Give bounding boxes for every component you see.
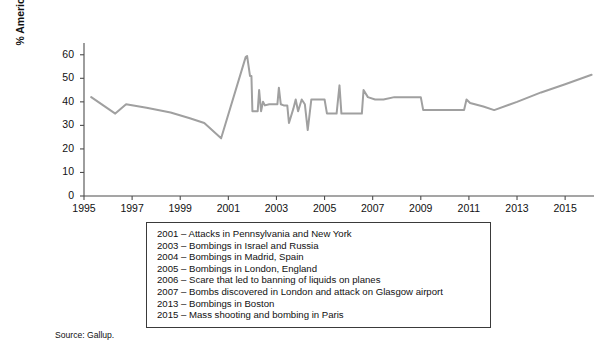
y-tick-label: 50: [52, 71, 74, 83]
annotation-legend-box: 2001 – Attacks in Pennsylvania and New Y…: [146, 222, 491, 328]
annotation-line: 2013 – Bombings in Boston: [157, 298, 482, 310]
x-tick-label: 1997: [112, 202, 152, 214]
x-tick-label: 2001: [208, 202, 248, 214]
annotation-line: 2003 – Bombings in Israel and Russia: [157, 240, 482, 252]
source-note: Source: Gallup.: [55, 330, 114, 340]
y-tick-label: 10: [52, 165, 74, 177]
x-tick-label: 2005: [305, 202, 345, 214]
x-tick-label: 2015: [545, 202, 585, 214]
axes: [80, 43, 594, 200]
data-series: [91, 56, 591, 138]
y-tick-label: 30: [52, 118, 74, 130]
annotation-line: 2015 – Mass shooting and bombing in Pari…: [157, 309, 482, 321]
series-line: [91, 56, 591, 138]
y-tick-label: 60: [52, 48, 74, 60]
annotation-line: 2006 – Scare that led to banning of liqu…: [157, 274, 482, 286]
y-tick-label: 20: [52, 142, 74, 154]
y-tick-label: 0: [52, 189, 74, 201]
annotation-line: 2001 – Attacks in Pennsylvania and New Y…: [157, 228, 482, 240]
annotation-line: 2004 – Bombings in Madrid, Spain: [157, 251, 482, 263]
x-tick-label: 2007: [353, 202, 393, 214]
x-tick-label: 2003: [256, 202, 296, 214]
y-tick-label: 40: [52, 95, 74, 107]
chart-figure: % Americans very/somewhat worried about …: [0, 0, 610, 350]
x-tick-label: 1995: [64, 202, 104, 214]
x-tick-label: 1999: [160, 202, 200, 214]
x-tick-label: 2009: [401, 202, 441, 214]
annotation-line: 2007 – Bombs discovered in London and at…: [157, 286, 482, 298]
x-tick-label: 2011: [449, 202, 489, 214]
x-tick-label: 2013: [497, 202, 537, 214]
annotation-line: 2005 – Bombings in London, England: [157, 263, 482, 275]
